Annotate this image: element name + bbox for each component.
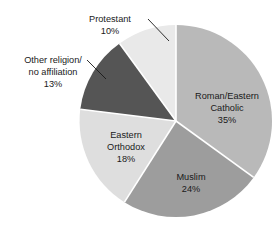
orthodox-label-line2: Orthodox [107, 142, 145, 152]
protestant-label-percent: 10% [101, 26, 119, 36]
catholic-label-line1: Roman/Eastern [195, 91, 259, 101]
orthodox-label-percent: 18% [117, 154, 135, 164]
protestant-label-line1: Protestant [89, 14, 131, 24]
other-religion-label-line1: Other religion/ [24, 55, 82, 65]
other-religion-label-line2: no affiliation [29, 67, 78, 77]
other-religion-label-percent: 13% [44, 79, 62, 89]
catholic-label-percent: 35% [218, 115, 236, 125]
pie-chart-svg: Roman/Eastern Catholic 35% Muslim 24% Ea… [0, 0, 279, 225]
orthodox-label-line1: Eastern [110, 130, 142, 140]
muslim-label-line1: Muslim [176, 172, 205, 182]
muslim-label-percent: 24% [182, 184, 200, 194]
pie-chart-figure: Roman/Eastern Catholic 35% Muslim 24% Ea… [0, 0, 279, 225]
catholic-label-line2: Catholic [210, 103, 244, 113]
